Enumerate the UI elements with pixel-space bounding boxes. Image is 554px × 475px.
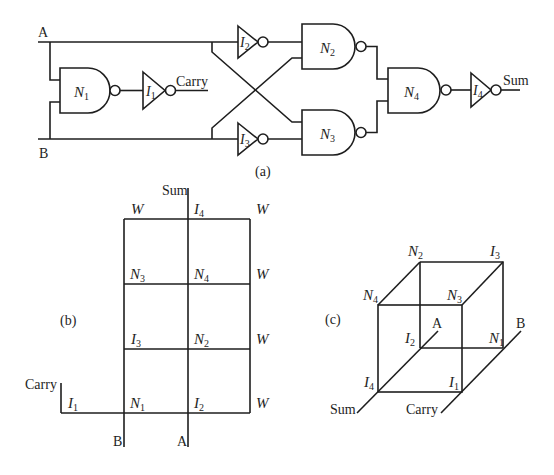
cube-vertex-i3: I3	[489, 243, 500, 261]
carry-output-label: Carry	[176, 74, 208, 89]
grid-cell-i1: I1	[67, 395, 78, 413]
cube-carry-label: Carry	[406, 402, 438, 417]
cube-vertex-n2: N2	[407, 243, 423, 261]
grid-cell-n2: N2	[193, 331, 209, 349]
cube-vertex-i4: I4	[363, 374, 374, 392]
grid-cell-i3: I3	[130, 331, 141, 349]
i1-inversion-bubble	[166, 86, 176, 96]
wire-n2-to-n4	[366, 47, 388, 80]
n3-inversion-bubble	[356, 128, 366, 138]
wire-a-to-n3	[212, 42, 302, 122]
panel-a-circuit: A B N1 I1 Carry I2 I3 N2	[38, 24, 529, 180]
grid-cell-w-top-right: W	[256, 201, 270, 217]
wire-n3-to-n4	[366, 101, 388, 133]
cube-vertex-i2: I2	[404, 330, 415, 348]
grid-cell-n3: N3	[129, 266, 145, 284]
grid-b-label: B	[113, 434, 122, 449]
cube-vertex-n1: N1	[488, 330, 504, 348]
grid-cell-w-row2: W	[256, 266, 270, 282]
grid-cell-w-row3: W	[256, 331, 270, 347]
cube-vertex-i1: I1	[448, 374, 459, 392]
i3-inversion-bubble	[258, 134, 268, 144]
wire-b-to-n2	[212, 58, 302, 139]
grid-cell-w-row4: W	[256, 395, 270, 411]
n4-inversion-bubble	[441, 85, 451, 95]
cube-a-label: A	[432, 316, 443, 331]
sum-output-label: Sum	[503, 73, 529, 88]
i4-inversion-bubble	[491, 85, 501, 95]
grid-cell-w-top-left: W	[131, 201, 145, 217]
grid-sum-label: Sum	[162, 183, 188, 198]
cube-vertex-n4: N4	[362, 287, 378, 305]
panel-c-cube: N2 I3 N4 N3 I2 N1 I4 I1 A B Sum Carry (c…	[325, 243, 525, 417]
wire-b-to-n1	[50, 102, 60, 139]
grid-cell-n1: N1	[129, 395, 145, 413]
cube-wire-sum-to-a	[357, 331, 438, 413]
cube-vertex-n3: N3	[446, 287, 462, 305]
half-adder-figure: A B N1 I1 Carry I2 I3 N2	[0, 0, 554, 475]
n2-inversion-bubble	[356, 42, 366, 52]
panel-a-caption: (a)	[255, 164, 271, 180]
panel-b-caption: (b)	[60, 313, 77, 329]
panel-c-caption: (c)	[325, 312, 341, 328]
grid-cell-i4: I4	[193, 201, 204, 219]
cube-b-label: B	[516, 316, 525, 331]
input-b-label: B	[39, 146, 48, 161]
input-a-label: A	[38, 25, 49, 40]
i2-inversion-bubble	[258, 37, 268, 47]
cube-edge-n4-n2	[378, 262, 420, 305]
n1-inversion-bubble	[110, 86, 120, 96]
panel-b-grid: Sum Carry B A (b) W I4 W N3 N4 W I3 N2 W…	[25, 183, 270, 449]
grid-a-label: A	[177, 434, 188, 449]
cube-sum-label: Sum	[330, 402, 356, 417]
grid-carry-label: Carry	[25, 377, 57, 392]
wire-a-to-n1	[50, 42, 60, 80]
grid-cell-n4: N4	[193, 266, 209, 284]
grid-cell-i2: I2	[193, 395, 204, 413]
cube-wire-carry-to-b	[441, 331, 521, 413]
cube-edge-n3-i3	[462, 262, 503, 305]
